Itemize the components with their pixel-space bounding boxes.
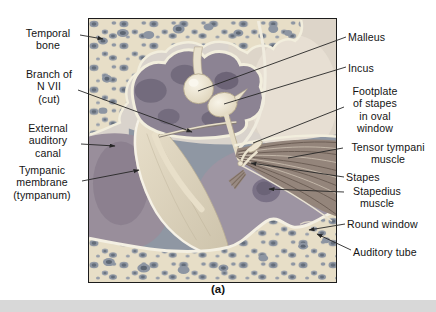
label-footplate-of-stapes: Footplate of stapes in oval window bbox=[346, 85, 404, 134]
label-tensor-tympani-muscle: Tensor tympani muscle bbox=[344, 141, 432, 166]
figure-caption: (a) bbox=[203, 283, 233, 295]
middle-ear-illustration bbox=[89, 19, 336, 282]
label-malleus: Malleus bbox=[348, 31, 385, 43]
label-temporal-bone: Temporal bone bbox=[14, 27, 82, 52]
label-round-window: Round window bbox=[347, 218, 418, 230]
label-tympanic-membrane: Tympanic membrane (tympanum) bbox=[0, 164, 84, 201]
label-stapedius-muscle: Stapedius muscle bbox=[346, 185, 408, 210]
label-branch-of-n-vii: Branch of N VII (cut) bbox=[16, 68, 82, 105]
label-stapes: Stapes bbox=[346, 171, 380, 183]
label-external-auditory-canal: External auditory canal bbox=[14, 122, 82, 159]
label-auditory-tube: Auditory tube bbox=[353, 246, 417, 258]
illustration-frame bbox=[88, 18, 337, 283]
figure-canvas: Temporal bone Branch of N VII (cut) Exte… bbox=[0, 0, 436, 312]
label-incus: Incus bbox=[348, 62, 374, 74]
scan-artifact-band bbox=[0, 300, 436, 312]
